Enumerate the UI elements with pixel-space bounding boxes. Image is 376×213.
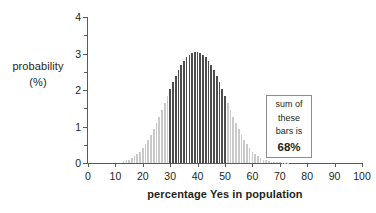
bar [139, 152, 141, 163]
bar [254, 154, 256, 163]
bar [246, 144, 248, 163]
x-tick-label: 80 [301, 170, 313, 182]
bar [263, 160, 265, 163]
bar [252, 152, 254, 163]
bar [153, 129, 155, 163]
y-tick [83, 90, 87, 91]
y-tick-label: 1 [75, 121, 81, 133]
y-tick [83, 163, 87, 164]
bar-highlighted [169, 89, 171, 163]
x-tick [88, 163, 89, 167]
bar [257, 156, 259, 163]
bar [271, 162, 273, 163]
bar-highlighted [186, 57, 188, 163]
x-tick [307, 163, 308, 167]
bar [145, 144, 147, 163]
bar [238, 129, 240, 163]
x-tick-label: 60 [247, 170, 259, 182]
y-tick-minor [84, 145, 87, 146]
x-tick-label: 10 [110, 170, 122, 182]
annotation-line-2: these [278, 112, 300, 126]
bar-highlighted [208, 61, 210, 163]
y-tick-minor [84, 35, 87, 36]
y-tick [83, 54, 87, 55]
bar [279, 162, 281, 163]
bar-highlighted [194, 52, 196, 163]
bar [164, 103, 166, 163]
bar [230, 110, 232, 163]
x-tick-label: 100 [353, 170, 371, 182]
y-tick-label: 4 [75, 11, 81, 23]
x-tick [143, 163, 144, 167]
bar [134, 156, 136, 163]
y-tick-minor [84, 72, 87, 73]
annotation-line-3: bars is [276, 125, 303, 139]
bar-highlighted [216, 76, 218, 163]
x-tick [280, 163, 281, 167]
bar [260, 158, 262, 163]
bar [156, 123, 158, 163]
bar [235, 123, 237, 163]
bar [232, 117, 234, 163]
bar-highlighted [219, 82, 221, 163]
x-tick [198, 163, 199, 167]
annotation-line-4: 68% [277, 139, 300, 155]
y-tick-label: 0 [75, 157, 81, 169]
bar [131, 158, 133, 163]
bar-highlighted [191, 53, 193, 163]
bar [158, 117, 160, 163]
x-tick-label: 30 [164, 170, 176, 182]
bar-highlighted [221, 89, 223, 163]
x-tick [335, 163, 336, 167]
bar-highlighted [172, 82, 174, 163]
bar-highlighted [202, 55, 204, 163]
bar [276, 162, 278, 163]
y-axis-title-line1: probability [12, 60, 63, 72]
bar [123, 161, 125, 163]
x-tick [252, 163, 253, 167]
probability-distribution-chart: probability (%) 01234 010203040506070809… [0, 0, 376, 213]
x-tick-label: 40 [192, 170, 204, 182]
x-axis-title: percentage Yes in population [88, 188, 362, 200]
bar [265, 160, 267, 163]
bar-highlighted [180, 65, 182, 163]
x-tick [362, 163, 363, 167]
y-axis-title-line2: (%) [2, 74, 74, 90]
x-tick [170, 163, 171, 167]
annotation-line-1: sum of [275, 98, 302, 112]
x-tick-label: 20 [137, 170, 149, 182]
bar-highlighted [213, 70, 215, 163]
plot-area: 01234 0102030405060708090100 sum of thes… [88, 17, 362, 163]
histogram-bars [88, 17, 362, 163]
bar-highlighted [199, 53, 201, 163]
y-tick [83, 17, 87, 18]
x-tick-label: 0 [85, 170, 91, 182]
bar-highlighted [175, 76, 177, 163]
bar-highlighted [189, 55, 191, 163]
y-axis-title: probability (%) [2, 58, 74, 90]
bar [147, 140, 149, 163]
x-tick [225, 163, 226, 167]
bar [150, 135, 152, 163]
bar [249, 148, 251, 163]
bar [161, 110, 163, 163]
y-tick [83, 127, 87, 128]
bar [243, 140, 245, 163]
bar [273, 162, 275, 163]
bar [167, 96, 169, 163]
bar [136, 154, 138, 163]
bar [268, 161, 270, 163]
x-tick-label: 50 [219, 170, 231, 182]
y-tick-minor [84, 108, 87, 109]
bar [241, 135, 243, 163]
bar-highlighted [178, 70, 180, 163]
bar [142, 148, 144, 163]
y-tick-label: 3 [75, 48, 81, 60]
bar-highlighted [224, 96, 226, 163]
bar-highlighted [197, 52, 199, 163]
x-tick-label: 70 [274, 170, 286, 182]
bar [128, 160, 130, 163]
bar [126, 160, 128, 163]
annotation-callout: sum of these bars is 68% [266, 95, 312, 158]
bar [227, 103, 229, 163]
